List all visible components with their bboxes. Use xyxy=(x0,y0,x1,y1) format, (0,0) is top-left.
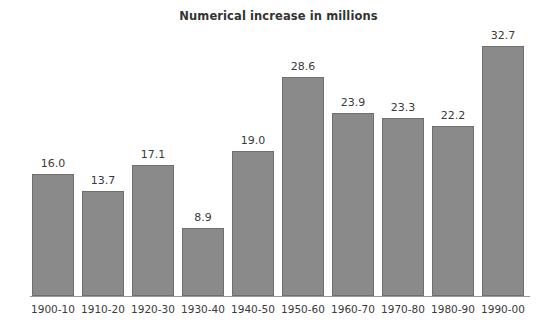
bar-rect xyxy=(332,113,374,296)
bar-rect xyxy=(432,126,474,296)
bar-1960-70: 23.9 xyxy=(332,113,374,296)
bar-1970-80: 23.3 xyxy=(382,118,424,296)
bar-value-label: 32.7 xyxy=(474,29,532,42)
bar-1940-50: 19.0 xyxy=(232,151,274,296)
bar-chart: Numerical increase in millions 16.013.71… xyxy=(0,0,557,331)
bar-rect xyxy=(232,151,274,296)
bar-rect xyxy=(182,228,224,296)
bar-rect xyxy=(482,46,524,296)
bar-1990-00: 32.7 xyxy=(482,46,524,296)
x-axis-line xyxy=(30,296,530,297)
bar-1950-60: 28.6 xyxy=(282,77,324,296)
bar-value-label: 19.0 xyxy=(224,134,282,147)
bar-1910-20: 13.7 xyxy=(82,191,124,296)
bar-value-label: 22.2 xyxy=(424,109,482,122)
category-label-1990-00: 1990-00 xyxy=(474,303,532,315)
bar-value-label: 13.7 xyxy=(74,174,132,187)
bar-1920-30: 17.1 xyxy=(132,165,174,296)
bar-value-label: 17.1 xyxy=(124,148,182,161)
bar-rect xyxy=(82,191,124,296)
bar-value-label: 8.9 xyxy=(174,211,232,224)
bar-value-label: 28.6 xyxy=(274,60,332,73)
bar-1980-90: 22.2 xyxy=(432,126,474,296)
bar-rect xyxy=(382,118,424,296)
bar-value-label: 16.0 xyxy=(24,157,82,170)
bar-rect xyxy=(132,165,174,296)
bar-1930-40: 8.9 xyxy=(182,228,224,296)
chart-title: Numerical increase in millions xyxy=(0,9,557,23)
bar-rect xyxy=(32,174,74,296)
bar-1900-10: 16.0 xyxy=(32,174,74,296)
bar-rect xyxy=(282,77,324,296)
